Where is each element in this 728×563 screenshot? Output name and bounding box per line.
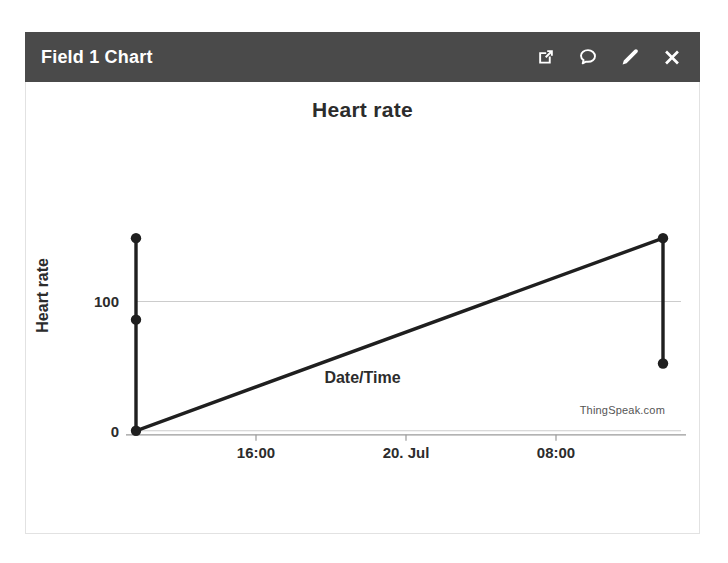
data-point[interactable] <box>658 233 668 243</box>
y-tick-label: 0 <box>111 423 119 440</box>
widget-body: Heart rate Heart rate Date/Time ThingSpe… <box>25 82 700 534</box>
screen: Field 1 Chart <box>0 0 728 563</box>
data-point[interactable] <box>131 426 141 436</box>
comment-icon[interactable] <box>578 47 598 67</box>
widget-header: Field 1 Chart <box>25 32 700 82</box>
x-tick-label: 16:00 <box>237 444 275 461</box>
field-chart-widget: Field 1 Chart <box>25 32 700 534</box>
edit-icon[interactable] <box>620 47 640 67</box>
chart-canvas: 100 0 16:00 20. Jul 08:00 <box>26 82 699 533</box>
data-series[interactable] <box>131 233 668 436</box>
x-tick-label: 08:00 <box>537 444 575 461</box>
page-title: Field 1 Chart <box>41 47 153 68</box>
data-point[interactable] <box>131 314 141 324</box>
x-tick-label: 20. Jul <box>383 444 430 461</box>
heart-rate-chart[interactable]: Heart rate Heart rate Date/Time ThingSpe… <box>26 82 699 533</box>
data-point[interactable] <box>658 358 668 368</box>
data-point[interactable] <box>131 233 141 243</box>
header-actions <box>536 47 686 67</box>
popout-icon[interactable] <box>536 47 556 67</box>
close-icon[interactable] <box>662 47 682 67</box>
y-tick-label: 100 <box>94 293 119 310</box>
gridlines <box>136 301 681 430</box>
x-ticks: 16:00 20. Jul 08:00 <box>237 435 575 461</box>
